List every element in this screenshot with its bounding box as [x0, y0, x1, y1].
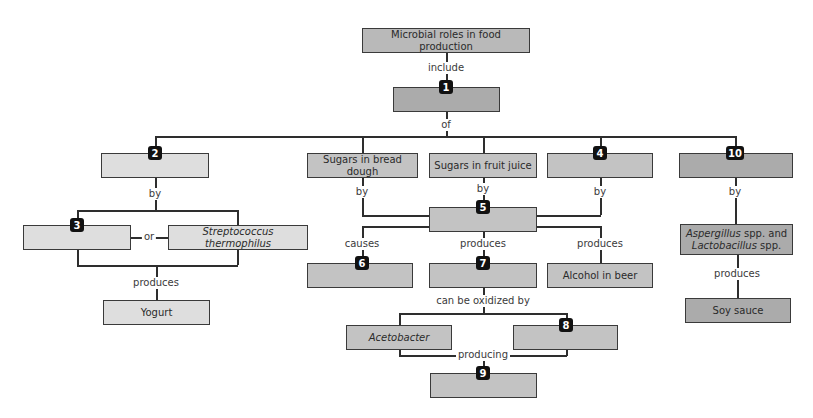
link-label: by	[354, 186, 370, 198]
badge-10: 10	[726, 146, 744, 160]
connector	[155, 136, 736, 138]
node-text: Microbial roles in food production	[363, 29, 529, 53]
node-text: Alcohol in beer	[563, 270, 638, 282]
link-label: by	[475, 183, 491, 195]
link-label: producing	[456, 349, 510, 361]
link-label: include	[426, 62, 466, 74]
connector	[399, 313, 401, 325]
node-text: Sugars in bread dough	[308, 154, 417, 178]
badge-8: 8	[559, 318, 573, 332]
node-yogurt: Yogurt	[103, 300, 210, 325]
connector	[537, 215, 601, 217]
node-text-line2: Lactobacillus spp.	[692, 240, 781, 252]
connector	[483, 136, 485, 153]
connector	[362, 136, 364, 153]
node-text: Acetobacter	[369, 332, 430, 344]
badge-3: 3	[70, 218, 84, 232]
node-soy-sauce: Soy sauce	[685, 298, 791, 323]
connector	[362, 215, 429, 217]
node-text: Streptococcus thermophilus	[169, 226, 307, 250]
connector	[735, 177, 737, 224]
badge-4: 4	[593, 146, 607, 160]
node-fruit: Sugars in fruit juice	[429, 153, 537, 178]
badge-6: 6	[355, 256, 369, 270]
link-label: can be oxidized by	[434, 295, 532, 307]
node-streptococcus: Streptococcus thermophilus	[168, 225, 308, 250]
node-bread: Sugars in bread dough	[307, 153, 418, 178]
node-text: Sugars in fruit juice	[434, 160, 531, 172]
connector	[77, 210, 238, 212]
connector	[77, 265, 238, 267]
link-label: produces	[712, 268, 762, 280]
connector	[237, 250, 239, 265]
connector	[399, 313, 567, 315]
link-label: by	[727, 186, 743, 198]
connector	[237, 210, 239, 225]
node-text: Soy sauce	[713, 305, 764, 317]
link-label: produces	[131, 277, 181, 289]
node-text: Yogurt	[141, 307, 173, 319]
link-label: causes	[343, 238, 382, 250]
node-title: Microbial roles in food production	[362, 28, 530, 53]
badge-5: 5	[476, 200, 490, 214]
plain-text: spp. and	[741, 228, 787, 239]
plain-text: spp.	[757, 240, 781, 251]
badge-1: 1	[439, 80, 453, 94]
link-label: by	[592, 186, 608, 198]
connector	[77, 250, 79, 265]
italic-text: Lactobacillus	[692, 240, 757, 251]
link-label: by	[147, 188, 163, 200]
connector	[362, 226, 429, 228]
node-aspergillus-lactobacillus: Aspergillus spp. and Lactobacillus spp.	[680, 224, 793, 255]
italic-text: Aspergillus	[686, 228, 741, 239]
node-text-line1: Aspergillus spp. and	[686, 228, 787, 240]
node-acetobacter: Acetobacter	[346, 325, 452, 350]
badge-7: 7	[476, 256, 490, 270]
connector	[537, 226, 601, 228]
link-label: produces	[575, 238, 625, 250]
link-label: or	[142, 231, 156, 243]
link-label: produces	[458, 238, 508, 250]
link-label: of	[439, 119, 453, 131]
node-alcohol: Alcohol in beer	[547, 263, 653, 288]
badge-9: 9	[476, 366, 490, 380]
badge-2: 2	[148, 146, 162, 160]
